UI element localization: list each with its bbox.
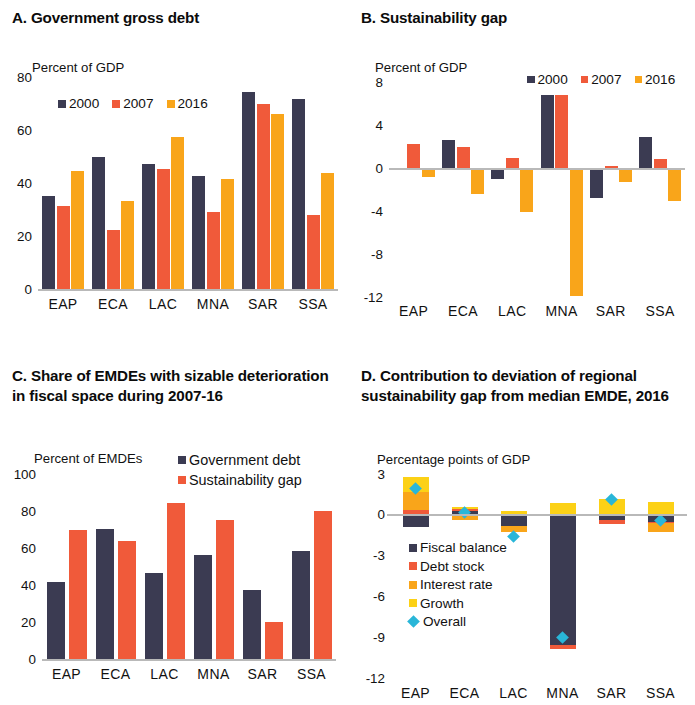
bar-mna-2007 [207,212,220,289]
x-tick: ECA [438,303,487,319]
bar-lac-2007 [157,169,170,289]
panel-b-title: B. Sustainability gap [361,8,691,28]
y-tick: 60 [4,123,32,138]
bar-sar-2007 [257,104,270,289]
bar-eca-sustainability-gap [118,541,136,659]
bar-eap-2000 [42,196,55,289]
y-tick: 80 [0,504,36,519]
panel-d-legend: Fiscal balance Debt stock Interest rate … [409,540,507,629]
bar-ssa-sustainability-gap [314,511,332,659]
y-tick: 40 [0,578,36,593]
x-tick: ECA [88,296,138,312]
legend-item-overall: Overall [409,614,466,629]
x-tick: SAR [587,685,636,701]
bar-sar-government-debt [243,590,261,659]
x-tick: LAC [140,666,189,682]
y-tick: 4 [349,118,383,133]
bar-mna-sustainability-gap [216,520,234,659]
y-tick: -8 [349,247,383,262]
x-tick: EAP [42,666,91,682]
y-tick: -12 [349,290,383,305]
bar-mna-2007 [555,95,568,168]
x-tick: LAC [488,303,537,319]
panel-c-plot [42,474,336,659]
stack-segment-ssa-growth [648,502,674,515]
y-tick: 3 [349,467,385,482]
y-tick: -9 [349,630,385,645]
legend-item-debt-stock: Debt stock [409,559,484,574]
y-tick: 0 [4,282,32,297]
panel-a-title: A. Government gross debt [12,8,342,28]
x-tick: SAR [238,296,288,312]
y-tick: -6 [349,589,385,604]
x-tick: MNA [538,685,587,701]
bar-eca-2000 [92,157,105,289]
legend-label: Fiscal balance [420,540,507,555]
bar-ssa-2016 [321,173,334,289]
y-tick: 40 [4,176,32,191]
bar-lac-2016 [520,168,533,212]
panel-b-zero-axis [389,168,685,170]
x-tick: LAC [489,685,538,701]
y-tick: -3 [349,548,385,563]
bar-lac-2000 [142,164,155,289]
panel-c-zero-axis [42,659,336,661]
x-tick: SAR [238,666,287,682]
bar-eca-2007 [107,230,120,289]
y-tick: 80 [4,70,32,85]
panel-d-title: D. Contribution to deviation of regional… [361,366,681,405]
legend-item-fiscal-balance: Fiscal balance [409,540,507,555]
legend-swatch-icon [409,599,417,607]
x-tick: EAP [389,303,438,319]
panel-b-plot [389,82,685,297]
x-tick: MNA [537,303,586,319]
x-tick: EAP [38,296,88,312]
figure-grid: A. Government gross debt Percent of GDP … [0,0,695,705]
bar-sar-2016 [619,168,632,182]
bar-lac-2000 [491,168,504,179]
legend-label: Growth [420,596,464,611]
bar-sar-sustainability-gap [265,622,283,659]
bar-eca-2016 [471,168,484,194]
y-tick: 8 [349,75,383,90]
x-tick: SSA [636,303,685,319]
x-tick: ECA [91,666,140,682]
x-tick: MNA [188,296,238,312]
bar-ssa-2016 [668,168,681,201]
panel-c-share-of-emdes: C. Share of EMDEs with sizable deteriora… [0,352,349,705]
panel-b-sustainability-gap: B. Sustainability gap Percent of GDP 200… [349,0,695,352]
bar-lac-government-debt [145,573,163,659]
panel-a-zero-axis [38,289,338,291]
bar-ssa-2000 [292,99,305,289]
legend-item-government-debt: Government debt [178,452,300,468]
bar-mna-2000 [192,176,205,289]
legend-label: Debt stock [420,559,484,574]
y-tick: 0 [349,161,383,176]
bar-mna-2016 [221,179,234,289]
x-tick: SSA [636,685,685,701]
legend-swatch-icon [409,581,417,589]
bar-sar-2000 [242,92,255,289]
x-tick: SAR [586,303,635,319]
legend-item-interest-rate: Interest rate [409,577,493,592]
panel-d-contribution-to-deviation: D. Contribution to deviation of regional… [349,352,695,705]
panel-a-government-gross-debt: A. Government gross debt Percent of GDP … [0,0,349,352]
x-tick: MNA [189,666,238,682]
stack-segment-lac-fiscal-balance [501,515,527,526]
x-tick: SSA [288,296,338,312]
legend-swatch-icon [178,456,186,464]
bar-ssa-2007 [654,159,667,168]
y-tick: 100 [0,467,36,482]
bar-eap-2016 [71,171,84,289]
bar-eap-government-debt [47,582,65,659]
y-tick: 20 [0,615,36,630]
y-tick: -4 [349,204,383,219]
bar-lac-2016 [171,137,184,289]
bar-mna-2016 [570,168,583,296]
x-tick: ECA [440,685,489,701]
bar-lac-sustainability-gap [167,503,185,659]
bar-ssa-2007 [307,215,320,289]
diamond-icon [407,615,420,628]
legend-swatch-icon [409,562,417,570]
bar-eca-government-debt [96,529,114,659]
